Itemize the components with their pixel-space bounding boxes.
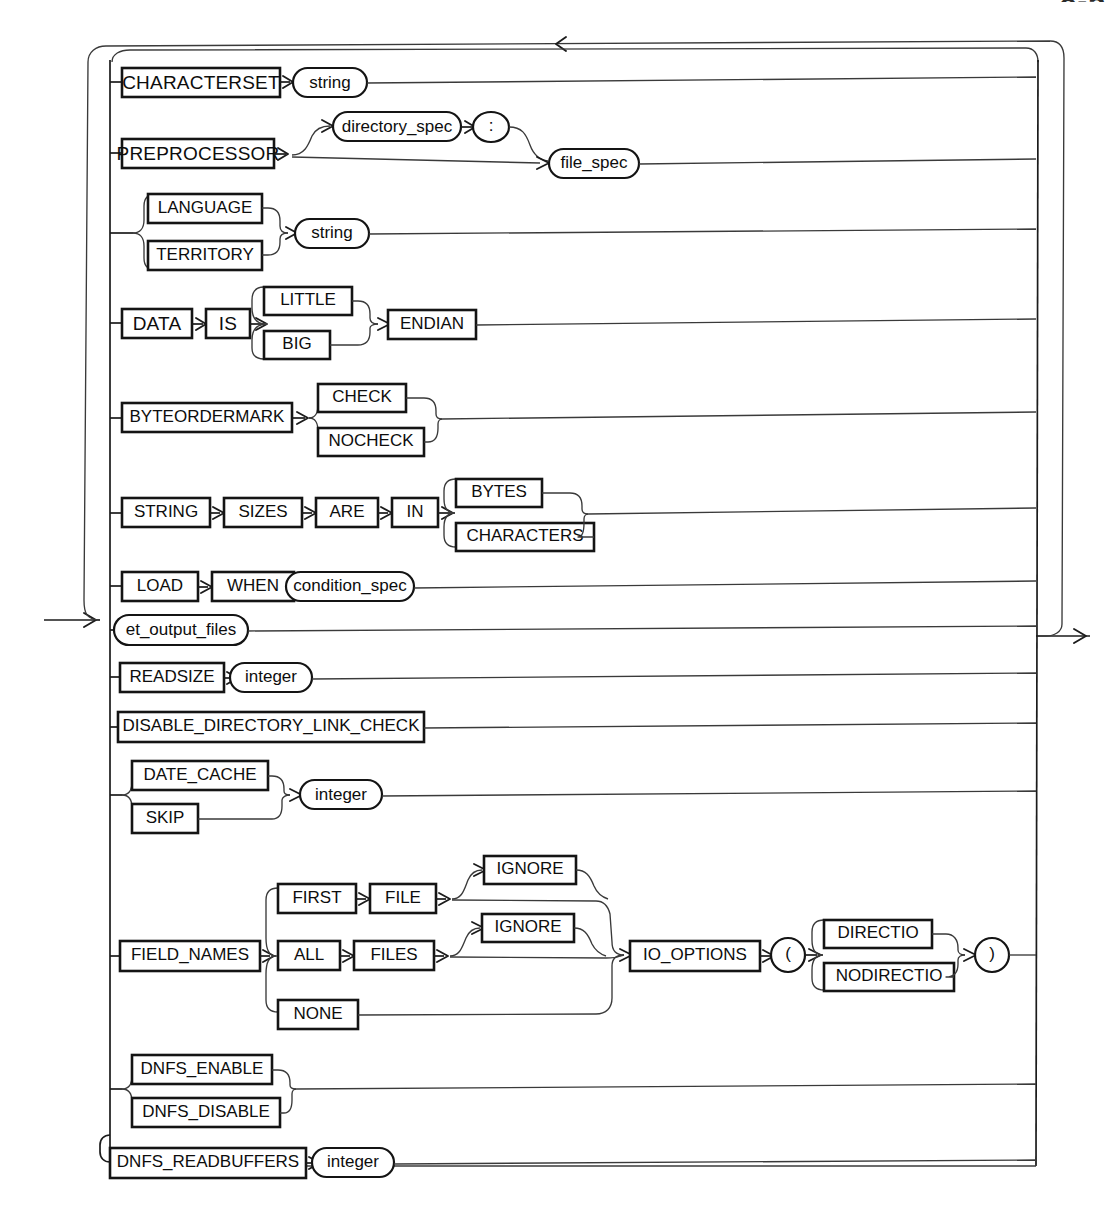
node-big-label: BIG (282, 334, 311, 353)
node-dnfs-enable-label: DNFS_ENABLE (141, 1059, 264, 1078)
node-territory-label: TERRITORY (156, 245, 254, 264)
node-sizes-label: SIZES (238, 502, 287, 521)
node-byteordermark-label: BYTEORDERMARK (130, 407, 286, 426)
node-characters-label: CHARACTERS (466, 526, 583, 545)
entry-arrow (44, 613, 100, 627)
node-file-label: FILE (385, 888, 421, 907)
node-nodirectio-label: NODIRECTIO (836, 966, 943, 985)
branch-date-cache-skip: DATE_CACHE SKIP integer (110, 761, 1036, 833)
node-integer-1-label: integer (245, 667, 297, 686)
node-field-names-label: FIELD_NAMES (131, 945, 249, 964)
branch-data-endian: DATA IS LITTLE BIG ENDIAN (110, 287, 1036, 359)
node-directio-label: DIRECTIO (837, 923, 918, 942)
node-file-spec-label: file_spec (560, 153, 628, 172)
railroad-diagram-root: 8-5 (0, 0, 1118, 1232)
node-is-label: IS (219, 313, 237, 334)
node-readsize-label: READSIZE (129, 667, 214, 686)
branch-string-sizes: STRING SIZES ARE IN BYTES CHARACTERS (110, 479, 1036, 551)
node-little-label: LITTLE (280, 290, 336, 309)
node-directory-spec-label: directory_spec (342, 117, 453, 136)
page-header-fragment: 8-5 (1060, 0, 1106, 2)
node-ignore-2-label: IGNORE (494, 917, 561, 936)
branch-characterset: CHARACTERSET string (110, 68, 1036, 97)
node-are-label: ARE (330, 502, 365, 521)
node-string-1-label: string (309, 73, 351, 92)
branch-disable-directory-link-check: DISABLE_DIRECTORY_LINK_CHECK (110, 712, 1036, 742)
node-skip-label: SKIP (146, 808, 185, 827)
node-dnfs-disable-label: DNFS_DISABLE (142, 1102, 270, 1121)
branch-load-when: LOAD WHEN condition_spec (110, 572, 1036, 601)
node-string-kw-label: STRING (134, 502, 198, 521)
node-io-options-label: IO_OPTIONS (643, 945, 747, 964)
branch-readsize: READSIZE integer (110, 663, 1036, 692)
node-check-label: CHECK (332, 387, 392, 406)
node-endian-label: ENDIAN (400, 314, 464, 333)
node-bytes-label: BYTES (471, 482, 527, 501)
branch-et-output-files: et_output_files (110, 615, 1036, 645)
node-dnfs-readbuffers-label: DNFS_READBUFFERS (117, 1152, 299, 1171)
branch-dnfs-enable-disable: DNFS_ENABLE DNFS_DISABLE (110, 1055, 1036, 1127)
node-paren-close-label: ) (989, 944, 995, 963)
branch-language-territory: LANGUAGE TERRITORY string (110, 194, 1036, 270)
node-none-label: NONE (293, 1004, 342, 1023)
node-colon-label: : (489, 116, 494, 135)
node-first-label: FIRST (292, 888, 341, 907)
node-data-label: DATA (133, 313, 182, 334)
node-integer-2-label: integer (315, 785, 367, 804)
node-disable-directory-link-check-label: DISABLE_DIRECTORY_LINK_CHECK (123, 716, 421, 735)
node-files-label: FILES (370, 945, 417, 964)
railroad-diagram-svg: CHARACTERSET string PREPROCESSOR directo… (0, 0, 1118, 1232)
branch-dnfs-readbuffers: DNFS_READBUFFERS integer (100, 1135, 1036, 1178)
node-integer-3-label: integer (327, 1152, 379, 1171)
node-preprocessor-label: PREPROCESSOR (117, 143, 280, 164)
branch-byteordermark: BYTEORDERMARK CHECK NOCHECK (110, 384, 1036, 456)
node-nocheck-label: NOCHECK (328, 431, 414, 450)
node-all-label: ALL (294, 945, 324, 964)
node-paren-open-label: ( (785, 944, 791, 963)
node-when-label: WHEN (227, 576, 279, 595)
branch-field-names: FIELD_NAMES FIRST FILE IGNORE (110, 856, 1036, 1029)
branch-preprocessor: PREPROCESSOR directory_spec : file_spec (110, 112, 1036, 178)
node-characterset-label: CHARACTERSET (122, 72, 280, 93)
node-ignore-1-label: IGNORE (496, 859, 563, 878)
node-load-label: LOAD (137, 576, 183, 595)
node-date-cache-label: DATE_CACHE (143, 765, 256, 784)
node-language-label: LANGUAGE (158, 198, 252, 217)
node-in-label: IN (407, 502, 424, 521)
node-string-2-label: string (311, 223, 353, 242)
node-et-output-files-label: et_output_files (126, 620, 237, 639)
node-condition-spec-label: condition_spec (293, 576, 407, 595)
